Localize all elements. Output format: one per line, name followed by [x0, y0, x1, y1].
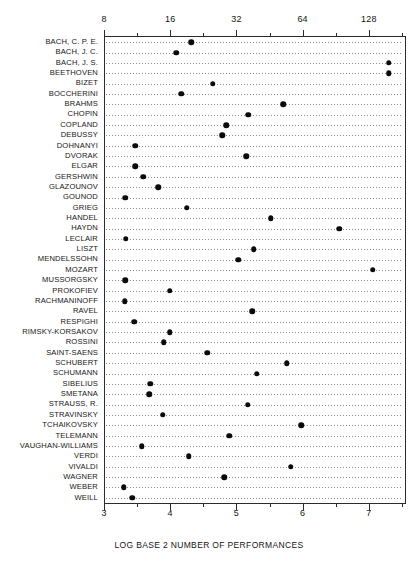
bottom-axis-minor-tick	[203, 504, 204, 507]
data-point[interactable]	[140, 174, 146, 180]
category-label: BACH, J. C.	[55, 47, 98, 57]
data-point[interactable]	[236, 257, 242, 263]
data-point[interactable]	[244, 153, 250, 159]
data-point[interactable]	[222, 474, 228, 480]
data-point[interactable]	[386, 60, 392, 66]
data-point[interactable]	[122, 298, 128, 304]
bottom-axis-tick-label: 5	[234, 508, 239, 518]
data-point[interactable]	[186, 454, 192, 460]
data-point[interactable]	[226, 433, 232, 439]
category-label: HAYDN	[71, 223, 98, 233]
data-row	[104, 431, 405, 441]
data-point[interactable]	[121, 485, 127, 491]
data-row	[104, 141, 405, 151]
category-label: MENDELSSOHN	[38, 254, 98, 264]
top-axis-tick-labels: 8163264128	[0, 14, 418, 28]
category-label: BOCCHERINI	[49, 89, 98, 99]
data-point[interactable]	[281, 102, 287, 108]
data-row	[104, 410, 405, 420]
category-label: LISZT	[77, 244, 98, 254]
data-row	[104, 99, 405, 109]
gridline	[106, 270, 403, 271]
gridline	[106, 177, 403, 178]
data-row	[104, 368, 405, 378]
data-row	[104, 306, 405, 316]
data-point[interactable]	[336, 226, 342, 232]
data-point[interactable]	[246, 112, 252, 118]
category-label: SCHUMANN	[53, 368, 98, 378]
gridline	[106, 415, 403, 416]
category-label: DVORAK	[65, 151, 98, 161]
data-point[interactable]	[184, 205, 190, 211]
data-row	[104, 286, 405, 296]
data-point[interactable]	[173, 50, 179, 56]
gridline	[106, 218, 403, 219]
category-label: GERSHWIN	[55, 172, 98, 182]
data-point[interactable]	[122, 195, 128, 201]
category-axis-labels: BACH, C. P. E.BACH, J. C.BACH, J. S.BEET…	[0, 37, 101, 503]
gridline	[106, 135, 403, 136]
data-point[interactable]	[161, 340, 167, 346]
data-point[interactable]	[156, 184, 162, 190]
category-label: COPLAND	[60, 120, 98, 130]
data-point[interactable]	[146, 392, 152, 398]
data-point[interactable]	[370, 267, 376, 273]
gridline	[106, 73, 403, 74]
data-row	[104, 182, 405, 192]
bottom-axis-tick-labels: 34567	[0, 508, 418, 522]
data-row	[104, 317, 405, 327]
data-point[interactable]	[123, 236, 129, 242]
data-point[interactable]	[299, 423, 305, 429]
data-point[interactable]	[254, 371, 260, 377]
data-row	[104, 451, 405, 461]
category-label: BEETHOVEN	[50, 68, 98, 78]
data-point[interactable]	[139, 443, 145, 449]
data-point[interactable]	[167, 288, 173, 294]
category-label: WEBER	[69, 482, 98, 492]
data-row	[104, 161, 405, 171]
category-label: PROKOFIEV	[52, 286, 98, 296]
gridline	[106, 239, 403, 240]
gridline	[106, 456, 403, 457]
data-point[interactable]	[386, 70, 392, 76]
data-row	[104, 68, 405, 78]
gridline	[106, 301, 403, 302]
data-row	[104, 327, 405, 337]
data-row	[104, 89, 405, 99]
data-point[interactable]	[268, 215, 274, 221]
data-point[interactable]	[130, 495, 136, 501]
gridline	[106, 353, 403, 354]
gridline	[106, 229, 403, 230]
gridline	[106, 363, 403, 364]
data-point[interactable]	[210, 81, 216, 87]
data-point[interactable]	[167, 329, 173, 335]
data-point[interactable]	[132, 143, 138, 149]
category-label: SIBELIUS	[63, 379, 98, 389]
top-axis-tick-label: 128	[361, 14, 377, 24]
data-row	[104, 37, 405, 47]
data-point[interactable]	[251, 247, 257, 253]
data-point[interactable]	[148, 381, 154, 387]
category-label: RESPIGHI	[61, 317, 99, 327]
data-point[interactable]	[132, 319, 138, 325]
data-point[interactable]	[245, 402, 251, 408]
data-point[interactable]	[224, 122, 230, 128]
data-point[interactable]	[288, 464, 294, 470]
data-row	[104, 120, 405, 130]
data-point[interactable]	[205, 350, 211, 356]
category-label: WAGNER	[63, 472, 98, 482]
data-row	[104, 296, 405, 306]
data-point[interactable]	[132, 164, 138, 170]
bottom-axis-minor-tick	[336, 504, 337, 507]
category-label: BRAHMS	[65, 99, 98, 109]
data-point[interactable]	[160, 412, 166, 418]
data-row	[104, 337, 405, 347]
category-label: GLAZOUNOV	[49, 182, 98, 192]
data-point[interactable]	[284, 360, 290, 366]
data-point[interactable]	[250, 309, 256, 315]
data-point[interactable]	[220, 133, 226, 139]
gridline	[106, 322, 403, 323]
data-point[interactable]	[122, 278, 128, 284]
data-point[interactable]	[179, 91, 185, 97]
data-point[interactable]	[189, 39, 195, 45]
